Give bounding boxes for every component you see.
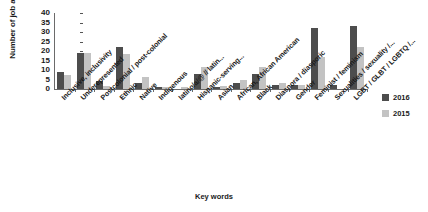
x-tick-mark — [94, 89, 95, 92]
bar-group — [348, 13, 368, 89]
x-tick-mark — [231, 89, 232, 92]
bar-2015 — [123, 54, 130, 89]
bar-2016 — [213, 87, 220, 89]
bar-2016 — [330, 85, 337, 89]
y-tick-label: 0 — [46, 85, 50, 93]
bar-2015 — [103, 86, 110, 89]
y-tick-label: 5 — [46, 76, 50, 84]
bar-2015 — [259, 67, 266, 89]
bar-2016 — [311, 28, 318, 89]
bar-group — [114, 13, 134, 89]
bar-group — [231, 13, 251, 89]
x-tick-mark — [75, 89, 76, 92]
x-tick-mark — [250, 89, 251, 92]
y-tick-label: 35 — [41, 19, 50, 27]
bar-2016 — [116, 47, 123, 89]
bar-2016 — [272, 85, 279, 89]
x-tick-mark — [367, 89, 368, 92]
y-tick-label: 10 — [41, 66, 50, 74]
bar-2015 — [279, 83, 286, 89]
bar-2016 — [96, 81, 103, 89]
x-tick-mark — [153, 89, 154, 92]
x-tick-mark — [289, 89, 290, 92]
bar-group — [211, 13, 231, 89]
bar-2016 — [291, 85, 298, 89]
bar-2015 — [64, 75, 71, 89]
y-tick-label: 40 — [41, 9, 50, 17]
bar-group — [250, 13, 270, 89]
bar-2015 — [318, 57, 325, 89]
bar-group — [133, 13, 153, 89]
x-tick-mark — [133, 89, 134, 92]
bar-2015 — [298, 85, 305, 89]
y-axis-title: Number of job ads — [8, 0, 17, 63]
plot-area — [55, 13, 367, 89]
x-tick-mark — [114, 89, 115, 92]
x-tick-mark — [348, 89, 349, 92]
bar-2016 — [57, 72, 64, 89]
bar-2016 — [135, 83, 142, 89]
bar-group — [153, 13, 173, 89]
bar-2016 — [77, 53, 84, 89]
y-tick-label: 20 — [41, 47, 50, 55]
bar-group — [94, 13, 114, 89]
bar-2016 — [155, 87, 162, 89]
bar-2016 — [194, 74, 201, 89]
bar-2015 — [142, 77, 149, 89]
bar-2016 — [233, 83, 240, 89]
legend-item: 2016 — [382, 93, 428, 102]
bar-group — [289, 13, 309, 89]
chart-legend: 20162015 — [382, 93, 428, 125]
bar-2015 — [220, 86, 227, 89]
bar-2015 — [181, 87, 188, 89]
y-tick-label: 25 — [41, 38, 50, 46]
bar-group — [309, 13, 329, 89]
x-tick-mark — [172, 89, 173, 92]
y-tick-label: 15 — [41, 57, 50, 65]
x-tick-mark — [309, 89, 310, 92]
bar-2015 — [201, 67, 208, 89]
y-tick-label: 30 — [41, 28, 50, 36]
x-tick-mark — [270, 89, 271, 92]
legend-label: 2016 — [393, 93, 410, 102]
legend-label: 2015 — [393, 109, 410, 118]
bar-2016 — [252, 74, 259, 89]
bar-group — [192, 13, 212, 89]
bar-2015 — [84, 53, 91, 89]
legend-item: 2015 — [382, 109, 428, 118]
x-tick-mark — [192, 89, 193, 92]
x-tick-mark — [328, 89, 329, 92]
bar-2015 — [240, 80, 247, 89]
x-axis-title: Key words — [0, 192, 428, 201]
legend-swatch-icon — [382, 94, 389, 101]
bar-group — [55, 13, 75, 89]
bar-2015 — [357, 47, 364, 89]
legend-swatch-icon — [382, 110, 389, 117]
bar-group — [328, 13, 348, 89]
bar-group — [270, 13, 290, 89]
y-axis-tick-labels: 0510152025303540 — [28, 9, 50, 91]
x-tick-mark — [211, 89, 212, 92]
bar-2015 — [162, 87, 169, 89]
bar-group — [75, 13, 95, 89]
bar-2016 — [350, 26, 357, 89]
bar-group — [172, 13, 192, 89]
bar-chart: Number of job ads 0510152025303540 Inclu… — [0, 0, 428, 212]
